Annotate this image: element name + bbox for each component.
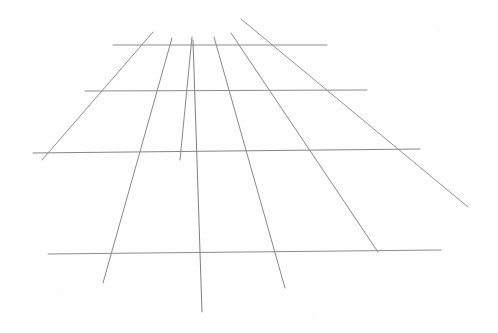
sketch-canvas: [0, 0, 498, 333]
perspective-grid-drawing: [0, 0, 498, 333]
paper-background: [0, 0, 498, 333]
